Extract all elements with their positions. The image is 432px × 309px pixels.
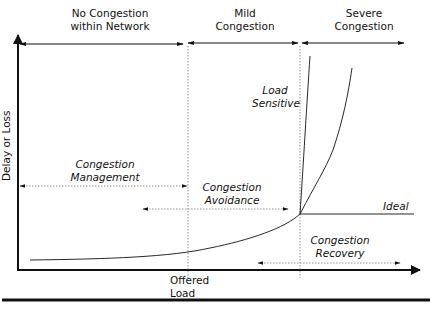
load-sensitive-curve-steep bbox=[300, 56, 310, 214]
strategy-label-management: Congestion Management bbox=[55, 158, 155, 184]
congestion-diagram-canvas bbox=[0, 0, 432, 309]
y-axis-label: Delay or Loss bbox=[0, 110, 12, 181]
delay-curve bbox=[30, 214, 300, 260]
x-axis-label: Offered Load bbox=[170, 274, 209, 300]
region-label-mild: Mild Congestion bbox=[210, 7, 280, 33]
region-label-severe: Severe Congestion bbox=[324, 7, 404, 33]
load-sensitive-label: Load Sensitive bbox=[252, 84, 298, 110]
ideal-label: Ideal bbox=[383, 200, 409, 213]
region-label-no-congestion: No Congestion within Network bbox=[55, 7, 165, 33]
strategy-label-recovery: Congestion Recovery bbox=[300, 234, 380, 260]
strategy-label-avoidance: Congestion Avoidance bbox=[192, 181, 272, 207]
